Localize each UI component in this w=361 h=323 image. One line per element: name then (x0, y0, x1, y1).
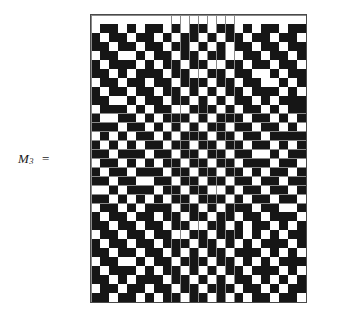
matrix-cell (243, 204, 251, 212)
matrix-cell (199, 212, 207, 220)
matrix-cell (243, 42, 251, 50)
matrix-cell (199, 177, 207, 185)
matrix-cell (235, 33, 243, 41)
matrix-cell (154, 221, 162, 229)
matrix-cell (136, 105, 144, 113)
matrix-cell (154, 239, 162, 247)
matrix-cell (100, 141, 108, 149)
matrix-cell (163, 177, 171, 185)
matrix-cell (92, 195, 100, 203)
matrix-cell (235, 186, 243, 194)
matrix-cell (172, 105, 180, 113)
matrix-cell (172, 239, 180, 247)
matrix-cell (118, 123, 126, 131)
matrix-cell (118, 248, 126, 256)
matrix-cell (154, 96, 162, 104)
matrix-cell (172, 248, 180, 256)
matrix-cell (127, 204, 135, 212)
matrix-cell (127, 186, 135, 194)
matrix-cell (190, 105, 198, 113)
matrix-cell (235, 51, 243, 59)
matrix-cell (118, 16, 126, 24)
matrix-cell (172, 204, 180, 212)
matrix-cell (118, 230, 126, 238)
matrix-cell (288, 239, 296, 247)
matrix-cell (92, 257, 100, 265)
matrix-cell (172, 123, 180, 131)
matrix-cell (92, 230, 100, 238)
matrix-cell (270, 257, 278, 265)
matrix-cell (199, 275, 207, 283)
matrix-cell (136, 284, 144, 292)
matrix-cell (235, 87, 243, 95)
matrix-cell (172, 78, 180, 86)
matrix-cell (297, 293, 305, 301)
matrix-cell (252, 69, 260, 77)
matrix-cell (279, 239, 287, 247)
matrix-cell (226, 168, 234, 176)
matrix-cell (243, 16, 251, 24)
matrix-cell (92, 266, 100, 274)
matrix-cell (297, 96, 305, 104)
matrix-cell (199, 123, 207, 131)
matrix-cell (181, 168, 189, 176)
matrix-cell (100, 60, 108, 68)
matrix-cell (136, 87, 144, 95)
matrix-cell (100, 212, 108, 220)
matrix-cell (92, 24, 100, 32)
matrix-cell (127, 24, 135, 32)
matrix-cell (154, 24, 162, 32)
matrix-cell (190, 293, 198, 301)
matrix-cell (118, 24, 126, 32)
matrix-cell (226, 195, 234, 203)
matrix-cell (235, 60, 243, 68)
matrix-cell (243, 69, 251, 77)
matrix-cell (92, 42, 100, 50)
matrix-cell (109, 275, 117, 283)
matrix-cell (181, 69, 189, 77)
matrix-cell (261, 105, 269, 113)
matrix-cell (288, 60, 296, 68)
matrix-cell (226, 132, 234, 140)
matrix-cell (252, 42, 260, 50)
matrix-cell (145, 51, 153, 59)
matrix-cell (252, 221, 260, 229)
matrix-cell (181, 87, 189, 95)
matrix-cell (154, 87, 162, 95)
matrix-cell (270, 123, 278, 131)
matrix-cell (100, 293, 108, 301)
matrix-cell (252, 293, 260, 301)
matrix-cell (235, 257, 243, 265)
matrix-cell (109, 221, 117, 229)
matrix-cell (279, 177, 287, 185)
matrix-cell (92, 239, 100, 247)
matrix-cell (163, 186, 171, 194)
matrix-cell (136, 132, 144, 140)
matrix-cell (181, 212, 189, 220)
matrix-cell (208, 266, 216, 274)
matrix-cell (109, 159, 117, 167)
matrix-cell (154, 159, 162, 167)
matrix-cell (270, 114, 278, 122)
matrix-cell (243, 87, 251, 95)
matrix-cell (261, 257, 269, 265)
matrix-cell (226, 114, 234, 122)
matrix-cell (297, 150, 305, 158)
matrix-cell (226, 239, 234, 247)
matrix-cell (208, 16, 216, 24)
matrix-cell (288, 141, 296, 149)
matrix-cell (270, 177, 278, 185)
matrix-cell (243, 239, 251, 247)
matrix-cell (288, 96, 296, 104)
matrix-cell (109, 51, 117, 59)
matrix-cell (208, 230, 216, 238)
matrix-cell (243, 275, 251, 283)
matrix-cell (172, 132, 180, 140)
matrix-cell (217, 141, 225, 149)
matrix-cell (92, 221, 100, 229)
matrix-cell (208, 141, 216, 149)
matrix-cell (235, 141, 243, 149)
matrix-cell (261, 141, 269, 149)
matrix-figure: M3 = (0, 0, 361, 323)
matrix-cell (181, 60, 189, 68)
